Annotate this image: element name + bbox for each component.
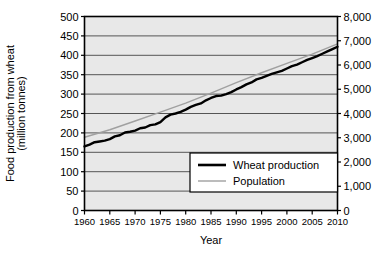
left-axis-tick-label: 0 bbox=[72, 205, 78, 217]
left-axis-tick-label: 250 bbox=[60, 108, 78, 120]
wheat-population-chart: 050100150200250300350400450500 01,0002,0… bbox=[0, 0, 391, 263]
chart-legend: Wheat productionPopulation bbox=[190, 153, 338, 192]
right-axis-tick-label: 2,000 bbox=[344, 156, 372, 168]
left-axis-tick-label: 150 bbox=[60, 146, 78, 158]
right-axis-tick-label: 7,000 bbox=[344, 35, 372, 47]
x-axis-tick-label: 1975 bbox=[150, 216, 171, 227]
left-axis-tick-label: 100 bbox=[60, 166, 78, 178]
right-axis-tick-label: 3,000 bbox=[344, 132, 372, 144]
right-axis-tick-label: 1,000 bbox=[344, 180, 372, 192]
y-axis-title-line-2: (million tonnes) bbox=[15, 76, 27, 151]
x-axis-tick-label: 1995 bbox=[251, 216, 272, 227]
left-axis-tick-label: 200 bbox=[60, 127, 78, 139]
x-axis-tick-label: 2010 bbox=[327, 216, 348, 227]
x-axis-tick-label: 1965 bbox=[99, 216, 120, 227]
chart-canvas: 050100150200250300350400450500 01,0002,0… bbox=[0, 0, 391, 263]
right-axis-tick-label: 6,000 bbox=[344, 59, 372, 71]
right-axis-tick-label: 5,000 bbox=[344, 83, 372, 95]
x-axis-tick-label: 1960 bbox=[74, 216, 95, 227]
x-axis-title: Year bbox=[200, 234, 223, 246]
left-axis-tick-label: 500 bbox=[60, 11, 78, 23]
right-axis-tick-label: 8,000 bbox=[344, 11, 372, 23]
left-axis-tick-label: 400 bbox=[60, 49, 78, 61]
left-axis-tick-label: 450 bbox=[60, 30, 78, 42]
x-axis-tick-label: 1990 bbox=[226, 216, 247, 227]
right-axis-ticks-group: 01,0002,0003,0004,0005,0006,0007,0008,00… bbox=[338, 11, 372, 217]
left-axis-tick-label: 50 bbox=[66, 185, 78, 197]
x-axis-tick-label: 1985 bbox=[200, 216, 221, 227]
left-axis-tick-label: 300 bbox=[60, 88, 78, 100]
x-axis-tick-label: 2005 bbox=[302, 216, 323, 227]
left-axis-tick-label: 350 bbox=[60, 69, 78, 81]
legend-label-2: Population bbox=[233, 175, 285, 187]
legend-label-1: Wheat production bbox=[233, 159, 319, 171]
right-axis-tick-label: 0 bbox=[344, 205, 350, 217]
x-axis-tick-label: 1970 bbox=[125, 216, 146, 227]
right-axis-tick-label: 4,000 bbox=[344, 108, 372, 120]
x-axis-tick-label: 1980 bbox=[175, 216, 196, 227]
x-axis-tick-label: 2000 bbox=[276, 216, 297, 227]
